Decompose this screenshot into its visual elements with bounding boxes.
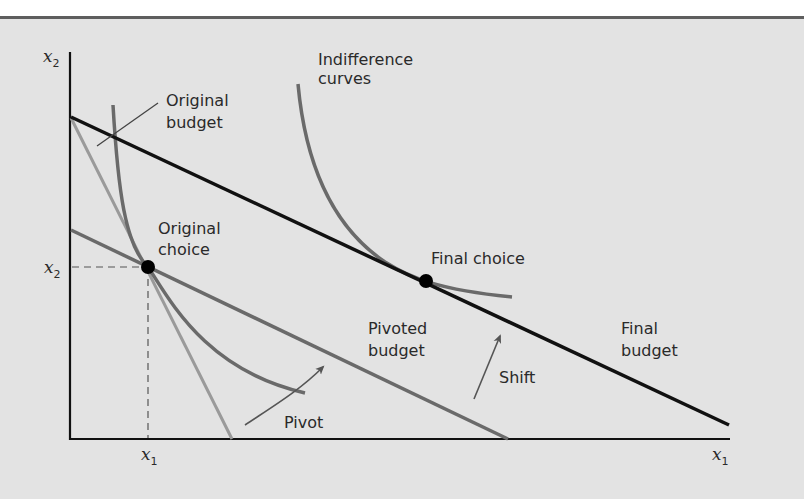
- shift-label: Shift: [499, 368, 535, 387]
- final-budget-label: Finalbudget: [621, 319, 678, 360]
- indifference-curves-label: Indifferencecurves: [318, 50, 413, 88]
- y-axis-label: x2: [43, 46, 60, 70]
- final-budget-line: [71, 117, 729, 425]
- shift-arrow: [474, 336, 500, 399]
- x-axis-label: x1: [712, 444, 729, 468]
- pivoted-budget-label: Pivotedbudget: [368, 319, 427, 360]
- pivot-label: Pivot: [284, 413, 323, 432]
- figure-frame: x2 x1 x2 x1 Originalbudget Indifferencec…: [0, 0, 809, 499]
- original-choice-point: [141, 260, 155, 274]
- final-choice-label: Final choice: [431, 249, 525, 268]
- x2-tick-label: x2: [44, 257, 61, 281]
- diagram-svg: x2 x1 x2 x1 Originalbudget Indifferencec…: [0, 0, 809, 499]
- original-budget-label: Originalbudget: [166, 91, 229, 132]
- original-budget-line: [71, 118, 232, 439]
- final-choice-point: [419, 274, 433, 288]
- original-choice-label: Originalchoice: [158, 219, 221, 259]
- x1-tick-label: x1: [141, 444, 158, 468]
- original-budget-leader: [97, 103, 158, 146]
